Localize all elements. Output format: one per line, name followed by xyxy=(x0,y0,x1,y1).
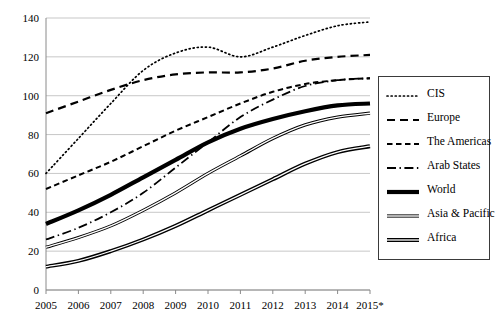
x-axis-tick-label: 2007 xyxy=(100,299,123,311)
legend-item-world[interactable]: World xyxy=(379,178,489,202)
legend-swatch-arab-states xyxy=(386,160,420,172)
x-axis-tick-label: 2009 xyxy=(165,299,188,311)
y-axis-tick-label: 20 xyxy=(28,245,40,257)
legend-swatch-europe xyxy=(386,112,420,124)
legend-swatch-africa xyxy=(386,232,420,244)
y-axis-tick-label: 60 xyxy=(28,167,40,179)
series-line-asia-pacific xyxy=(46,113,370,247)
y-axis-tick-label: 100 xyxy=(23,90,40,102)
x-axis-tick-label: 2005 xyxy=(35,299,58,311)
legend-swatch-world xyxy=(386,184,420,196)
legend-label-europe: Europe xyxy=(427,112,460,124)
legend-label-cis: CIS xyxy=(427,88,445,100)
legend-swatch-asia-pacific xyxy=(386,208,420,220)
legend-item-africa[interactable]: Africa xyxy=(379,226,489,250)
legend-swatch-cis xyxy=(386,88,420,100)
series-line-europe xyxy=(46,55,370,113)
y-axis-tick-label: 140 xyxy=(23,12,40,24)
x-axis-tick-label: 2008 xyxy=(132,299,155,311)
y-axis-tick-label: 120 xyxy=(23,51,40,63)
x-axis-tick-label: 2011 xyxy=(230,299,252,311)
legend-label-world: World xyxy=(427,184,455,196)
series-line-africa xyxy=(46,146,370,266)
x-axis-tick-label: 2015* xyxy=(356,299,384,311)
legend-label-the-americas: The Americas xyxy=(427,136,491,148)
legend-item-arab-states[interactable]: Arab States xyxy=(379,154,489,178)
chart-legend: CIS Europe The Americas Arab States Worl… xyxy=(378,76,490,260)
legend-label-arab-states: Arab States xyxy=(427,160,480,172)
legend-item-europe[interactable]: Europe xyxy=(379,106,489,130)
legend-swatch-the-americas xyxy=(386,136,420,148)
x-axis-tick-label: 2014 xyxy=(327,299,350,311)
x-axis-tick-label: 2006 xyxy=(67,299,90,311)
legend-item-asia-pacific[interactable]: Asia & Pacific xyxy=(379,202,489,226)
y-axis-tick-label: 80 xyxy=(28,129,40,141)
legend-label-africa: Africa xyxy=(427,232,456,244)
x-axis-tick-label: 2013 xyxy=(294,299,317,311)
y-axis-tick-label: 40 xyxy=(28,206,40,218)
chart-container: 0204060801001201402005200620072008200920… xyxy=(0,0,498,328)
legend-label-asia-pacific: Asia & Pacific xyxy=(427,208,495,220)
x-axis-tick-label: 2010 xyxy=(197,299,220,311)
x-axis-tick-label: 2012 xyxy=(262,299,284,311)
legend-item-the-americas[interactable]: The Americas xyxy=(379,130,489,154)
legend-item-cis[interactable]: CIS xyxy=(379,82,489,106)
y-axis-tick-label: 0 xyxy=(34,284,40,296)
series-line-cis xyxy=(46,22,370,174)
